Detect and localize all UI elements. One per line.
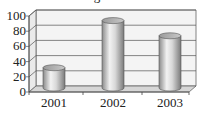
x-tick-label: 2001	[34, 95, 74, 111]
y-tick-label: 40	[0, 55, 26, 68]
y-tick-label: 0	[0, 85, 26, 98]
bar-2003	[159, 33, 181, 91]
y-tick-label: 20	[0, 70, 26, 83]
x-tick-label: 2002	[93, 95, 133, 111]
bar-2001	[43, 65, 65, 91]
y-tick-label: 100	[0, 9, 26, 22]
y-tick-label: 60	[0, 39, 26, 52]
bar-2002	[102, 18, 124, 91]
y-tick-label: 80	[0, 24, 26, 37]
x-tick-label: 2003	[150, 95, 190, 111]
